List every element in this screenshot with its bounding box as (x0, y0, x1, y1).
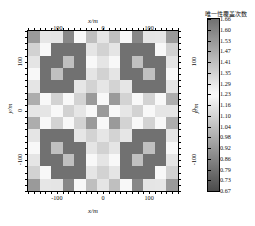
heatmap-cell (51, 179, 63, 191)
colorbar-tick-label: 0.86 (220, 155, 231, 162)
heatmap-cell (97, 154, 109, 166)
heatmap-cell (97, 93, 109, 105)
heatmap-cell (51, 154, 63, 166)
heatmap-cell (97, 105, 109, 117)
colorbar-tick-label: 0.73 (220, 176, 231, 183)
heatmap-cell (166, 68, 178, 80)
heatmap-cell (28, 68, 40, 80)
heatmap-cell (51, 105, 63, 117)
colorbar-tick-mark (208, 116, 211, 117)
heatmap-cell (40, 80, 52, 92)
heatmap-cell (40, 105, 52, 117)
heatmap-cell (120, 117, 132, 129)
colorbar-tick-mark (208, 127, 211, 128)
heatmap-cell (120, 68, 132, 80)
heatmap-cell (155, 31, 167, 43)
heatmap-cell (51, 31, 63, 43)
colorbar-tick-mark (208, 105, 211, 106)
heatmap-cell (51, 129, 63, 141)
colorbar-tick-label: 0.92 (220, 144, 231, 151)
heatmap-cell (143, 43, 155, 55)
heatmap-cell (155, 56, 167, 68)
heatmap-cell (74, 93, 86, 105)
heatmap-cell (120, 154, 132, 166)
heatmap-cell (51, 93, 63, 105)
heatmap-cell (155, 166, 167, 178)
heatmap-cell (74, 166, 86, 178)
colorbar-tick-mark (208, 159, 211, 160)
colorbar-tick-label: 1.10 (220, 112, 231, 119)
top-axis-label: x/m (88, 17, 98, 24)
heatmap-cell (86, 31, 98, 43)
heatmap-cell (86, 142, 98, 154)
colorbar-tick-mark (208, 51, 211, 52)
heatmap-cell (40, 166, 52, 178)
heatmap-cell (120, 31, 132, 43)
colorbar-tick-mark (208, 180, 211, 181)
heatmap-cell (166, 154, 178, 166)
heatmap-cell (86, 80, 98, 92)
heatmap-cell (86, 166, 98, 178)
y-tick-label: 100 (190, 48, 197, 74)
heatmap-cell (74, 43, 86, 55)
heatmap-cell (109, 154, 121, 166)
heatmap-cell (143, 166, 155, 178)
heatmap-cell (132, 142, 144, 154)
heatmap-cell (155, 142, 167, 154)
heatmap-cell (109, 68, 121, 80)
y-tick-label: 0 (190, 98, 197, 124)
heatmap-cell (143, 179, 155, 191)
colorbar-tick-mark (208, 94, 211, 95)
left-axis-label: y/m (6, 96, 13, 122)
heatmap-cell (74, 31, 86, 43)
heatmap-cell (132, 93, 144, 105)
heatmap-cell (40, 31, 52, 43)
heatmap-cell (40, 93, 52, 105)
heatmap-cell (28, 129, 40, 141)
heatmap-cell (86, 117, 98, 129)
heatmap-cell (74, 80, 86, 92)
heatmap-cell (28, 80, 40, 92)
heatmap-cell (155, 154, 167, 166)
heatmap-grid (28, 31, 178, 191)
colorbar-tick-mark (208, 191, 211, 192)
heatmap-cell (155, 80, 167, 92)
heatmap-cell (74, 129, 86, 141)
heatmap-cell (40, 68, 52, 80)
heatmap-cell (155, 117, 167, 129)
colorbar-tick-label: 0.67 (220, 187, 231, 194)
colorbar-tick-mark (208, 30, 211, 31)
x-tick-label: -100 (42, 194, 72, 201)
heatmap-cell (40, 179, 52, 191)
colorbar-tick-mark (208, 73, 211, 74)
heatmap-cell (132, 43, 144, 55)
heatmap-cell (109, 117, 121, 129)
heatmap-cell (63, 31, 75, 43)
heatmap-cell (86, 179, 98, 191)
colorbar-tick-label: 1.47 (220, 47, 231, 54)
heatmap-cell (166, 80, 178, 92)
heatmap-cell (120, 179, 132, 191)
heatmap-cell (97, 56, 109, 68)
heatmap-cell (63, 93, 75, 105)
colorbar-tick-label: 1.41 (220, 58, 231, 65)
heatmap-cell (166, 179, 178, 191)
heatmap-cell (28, 93, 40, 105)
heatmap-cell (120, 56, 132, 68)
heatmap-cell (86, 43, 98, 55)
heatmap-cell (28, 117, 40, 129)
heatmap-cell (86, 105, 98, 117)
heatmap-cell (120, 166, 132, 178)
heatmap-cell (120, 93, 132, 105)
colorbar-tick-label: 1.35 (220, 69, 231, 76)
heatmap-cell (109, 43, 121, 55)
heatmap-cell (63, 68, 75, 80)
colorbar-tick-label: 1.23 (220, 90, 231, 97)
heatmap-cell (97, 117, 109, 129)
heatmap-cell (28, 166, 40, 178)
heatmap-cell (132, 105, 144, 117)
heatmap-cell (166, 43, 178, 55)
heatmap-cell (132, 129, 144, 141)
heatmap-cell (63, 179, 75, 191)
heatmap-cell (166, 105, 178, 117)
